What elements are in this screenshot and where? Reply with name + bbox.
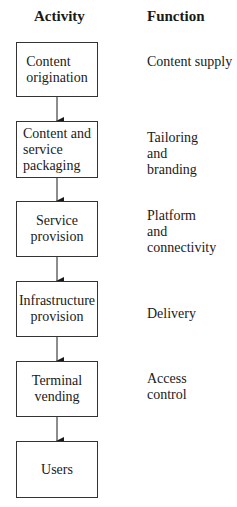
activity-box-users: Users [16, 441, 98, 498]
function-label-tailoring-branding: Tailoring and branding [147, 130, 198, 178]
function-label-delivery: Delivery [147, 306, 196, 322]
activity-box-content-origination: Content origination [16, 42, 98, 97]
function-label-content-supply: Content supply [147, 54, 232, 70]
function-label-access-control: Access control [147, 371, 187, 403]
activity-label: Infrastructure provision [19, 293, 95, 325]
function-label-platform-connectivity: Platform and connectivity [147, 208, 216, 256]
activity-label: Service provision [31, 213, 84, 245]
activity-box-terminal-vending: Terminal vending [16, 361, 98, 417]
activity-label: Terminal vending [32, 373, 82, 405]
activity-box-service-provision: Service provision [16, 201, 98, 257]
activity-label: Content and service packaging [23, 126, 91, 174]
activity-label: Users [41, 462, 73, 478]
activity-box-infrastructure-provision: Infrastructure provision [16, 281, 98, 337]
activity-label: Content origination [26, 54, 87, 86]
activity-box-content-service-packaging: Content and service packaging [16, 121, 98, 178]
